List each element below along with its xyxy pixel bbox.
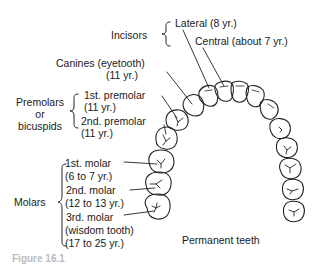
molar-3-right <box>283 201 304 222</box>
molar-2-age: (12 to 13 yr.) <box>65 197 124 209</box>
bicuspids-group-label: bicuspids <box>8 120 72 132</box>
premolar-2-right <box>276 138 297 158</box>
leader-premolar1 <box>162 96 177 118</box>
canine-right <box>260 100 278 120</box>
premolar-1-label: 1st. premolar <box>84 89 145 101</box>
molar-3-label: 3rd. molar <box>66 211 113 223</box>
leader-premolar2 <box>164 125 166 134</box>
canine-label: Canines (eyetooth) <box>56 57 145 69</box>
molar-1-right <box>280 158 302 179</box>
leader-molar2 <box>130 188 155 190</box>
premolar-1-age: (11 yr.) <box>84 101 116 113</box>
molar-1-left <box>149 150 174 173</box>
lateral-incisor-label: Lateral (8 yr.) <box>175 17 237 29</box>
canine-left <box>183 94 204 115</box>
incisors-brace <box>162 22 170 46</box>
leader-canine <box>167 72 192 104</box>
central-incisor-label: Central (about 7 yr.) <box>195 35 288 47</box>
premolar-1-right <box>270 119 291 139</box>
premolar-2-age: (11 yr.) <box>81 127 113 139</box>
premolars-group-label: Premolars <box>8 96 72 108</box>
canine-age: (11 yr.) <box>106 69 138 81</box>
leader-central <box>203 48 224 86</box>
diagram-title: Permanent teeth <box>182 234 260 246</box>
figure-caption-fragment: Figure 16.1 <box>12 253 65 264</box>
molar-2-left <box>146 172 172 195</box>
molar-3-note: (wisdom tooth) <box>65 224 134 236</box>
incisors-group-label: Incisors <box>111 29 147 41</box>
premolars-or-label: or <box>8 108 72 120</box>
molar-1-label: 1st. molar <box>65 157 111 169</box>
molar-1-age: (6 to 7 yr.) <box>65 170 112 182</box>
molars-group-label: Molars <box>14 196 46 208</box>
molar-3-left <box>145 194 170 219</box>
premolar-1-left <box>166 110 188 130</box>
leader-molar1 <box>124 162 157 164</box>
premolar-2-label: 2nd. premolar <box>81 115 146 127</box>
molar-2-label: 2nd. molar <box>66 184 116 196</box>
molar-2-right <box>282 179 303 200</box>
molar-3-age: (17 to 25 yr.) <box>65 237 124 249</box>
